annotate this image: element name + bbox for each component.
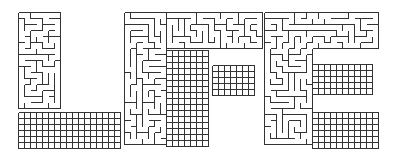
letter-l-maze xyxy=(19,13,121,149)
letter-i-maze xyxy=(125,13,167,145)
letter-e-maze xyxy=(265,13,379,149)
maze-canvas xyxy=(0,0,405,158)
letter-f-maze xyxy=(167,13,263,147)
